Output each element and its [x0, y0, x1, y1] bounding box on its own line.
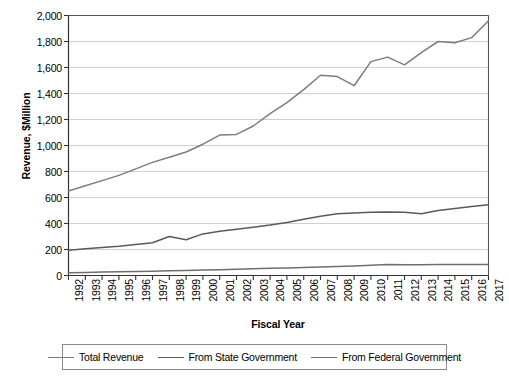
- x-tick-label: 2016: [476, 279, 488, 302]
- x-tick-label: 2010: [375, 279, 387, 302]
- series-line-1: [69, 205, 489, 251]
- x-tick-label: 1997: [157, 279, 169, 302]
- y-tick-marks: [64, 16, 69, 276]
- x-tick-label: 2011: [392, 279, 404, 301]
- legend-item: Total Revenue: [48, 351, 144, 363]
- x-tick-label: 2007: [325, 279, 337, 302]
- legend-line-swatch-icon: [158, 357, 184, 358]
- x-tick-label: 2004: [274, 279, 286, 302]
- x-tick-label: 1999: [190, 279, 202, 302]
- chart-canvas: [0, 0, 509, 300]
- x-tick-label: 1993: [90, 279, 102, 302]
- chart-legend: Total RevenueFrom State GovernmentFrom F…: [62, 344, 447, 370]
- legend-label: Total Revenue: [79, 351, 144, 363]
- y-tick-label: 2,000: [18, 10, 62, 22]
- x-tick-label: 2003: [258, 279, 270, 302]
- y-tick-label: 200: [18, 244, 62, 256]
- y-axis-title: Revenue, $Million: [20, 46, 32, 226]
- x-tick-label: 2008: [342, 279, 354, 302]
- x-axis-title: Fiscal Year: [68, 318, 488, 330]
- x-tick-label: 2013: [426, 279, 438, 302]
- x-tick-label: 1994: [106, 279, 118, 302]
- series-lines: [69, 21, 489, 273]
- x-tick-label: 2002: [241, 279, 253, 302]
- x-tick-label: 2015: [459, 279, 471, 302]
- x-tick-label: 1995: [123, 279, 135, 302]
- x-tick-label: 2006: [308, 279, 320, 302]
- legend-item: From State Government: [158, 351, 297, 363]
- x-tick-label: 2005: [291, 279, 303, 302]
- legend-label: From State Government: [189, 351, 297, 363]
- x-tick-label: 1996: [140, 279, 152, 302]
- x-tick-label: 2014: [442, 279, 454, 302]
- x-tick-label: 1992: [73, 279, 85, 302]
- x-tick-label: 2001: [224, 279, 236, 302]
- x-tick-label: 2000: [207, 279, 219, 302]
- legend-line-swatch-icon: [311, 357, 337, 358]
- x-axis-tick-labels: 1992199319941995199619971998199920002001…: [0, 279, 509, 319]
- x-tick-label: 2009: [358, 279, 370, 302]
- legend-item: From Federal Government: [311, 351, 461, 363]
- legend-line-swatch-icon: [48, 357, 74, 358]
- series-line-2: [69, 264, 489, 272]
- x-tick-label: 2017: [493, 279, 505, 302]
- plot-area: [0, 0, 509, 300]
- legend-label: From Federal Government: [342, 351, 461, 363]
- revenue-line-chart: 02004006008001,0001,2001,4001,6001,8002,…: [0, 0, 509, 376]
- series-line-0: [69, 21, 489, 191]
- x-tick-label: 1998: [174, 279, 186, 302]
- x-tick-label: 2012: [409, 279, 421, 302]
